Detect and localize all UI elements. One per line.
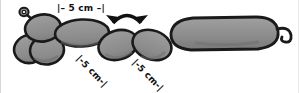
balloon-figure-diagram: |– 5 cm –| |-5 cm-| |-5 cm-| — [0, 0, 299, 93]
dimension-label-top: |– 5 cm –| — [57, 4, 105, 13]
body-segment — [171, 17, 278, 50]
knot-nub — [19, 8, 32, 19]
double-headed-curved-arrow — [106, 15, 148, 23]
